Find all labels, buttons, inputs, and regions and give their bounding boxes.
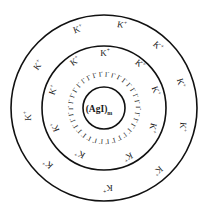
potassium-ion: K+: [175, 77, 188, 89]
potassium-ion: K+: [73, 147, 87, 161]
potassium-ion: K+: [116, 18, 127, 31]
iodide-ion: I-: [104, 137, 109, 147]
potassium-ion: K+: [40, 157, 55, 172]
iodide-ion: I-: [65, 111, 76, 117]
iodide-ion: I-: [110, 136, 117, 147]
iodide-ion: I-: [91, 69, 98, 80]
potassium-ion: K+: [30, 58, 45, 72]
iodide-ion: I-: [134, 106, 144, 110]
micelle-diagram: I-I-I-I-I-I-I-I-I-I-I-I-I-I-I-I-I-I-I-I-…: [0, 0, 209, 214]
potassium-ion: K+: [133, 56, 147, 71]
core-label: (AgI)m: [86, 104, 113, 116]
core-subscript: m: [107, 110, 112, 116]
iodide-ion: I-: [105, 68, 110, 78]
iodide-ion: I-: [65, 106, 75, 110]
potassium-ion: K+: [46, 83, 60, 96]
iodide-ion: I-: [133, 99, 144, 105]
iodide-ion: I-: [98, 68, 103, 78]
potassium-ion: K+: [147, 122, 160, 134]
potassium-ion: K+: [22, 111, 33, 121]
potassium-ion: K+: [100, 47, 110, 58]
potassium-ion: K+: [48, 121, 62, 134]
core-formula: (AgI): [86, 104, 108, 115]
potassium-ion: K+: [151, 38, 166, 53]
potassium-ion: K+: [150, 84, 164, 97]
potassium-ion: K+: [178, 122, 190, 133]
potassium-ion: K+: [103, 183, 113, 194]
iodide-ion: I-: [98, 137, 103, 147]
potassium-ion: K+: [71, 22, 84, 36]
potassium-ion: K+: [151, 164, 165, 179]
